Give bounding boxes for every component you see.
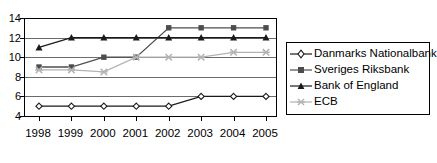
legend-item-bank-of-england: Bank of England (290, 78, 425, 94)
diamond-open-icon (290, 48, 312, 60)
legend-item-sveriges-riksbank: Sveriges Riksbank (290, 62, 425, 78)
x-axis-label: 2005 (252, 128, 278, 140)
x-tick (201, 116, 202, 121)
x-tick (266, 116, 267, 121)
x-axis-label: 1999 (58, 128, 84, 140)
x-tick (234, 116, 235, 121)
y-axis-labels: 14 12 10 8 6 4 (0, 18, 21, 116)
x-axis-label: 1998 (25, 128, 51, 140)
x-tick (71, 116, 72, 121)
x-tick (136, 116, 137, 121)
legend-label: Danmarks Nationalbank (314, 48, 437, 60)
triangle-filled-icon (290, 80, 312, 92)
x-axis-label: 2003 (187, 128, 213, 140)
x-tick (39, 116, 40, 121)
legend: Danmarks Nationalbank Sveriges Riksbank … (286, 42, 430, 115)
x-axis-label: 2002 (155, 128, 181, 140)
legend-label: Sveriges Riksbank (314, 64, 409, 76)
legend-label: ECB (314, 96, 338, 108)
y-tick (20, 116, 25, 117)
series-danmarks-nationalbank (36, 93, 269, 109)
square-filled-icon (290, 64, 312, 76)
legend-item-danmarks-nationalbank: Danmarks Nationalbank (290, 46, 425, 62)
x-axis-label: 2004 (220, 128, 246, 140)
x-cross-icon (290, 96, 312, 108)
x-axis-label: 2001 (122, 128, 148, 140)
x-tick (169, 116, 170, 121)
series-ecb (35, 49, 270, 75)
series-sveriges-riksbank (36, 25, 268, 70)
legend-item-ecb: ECB (290, 94, 425, 110)
series-layer (25, 18, 276, 116)
plot-area (24, 18, 277, 117)
x-tick (104, 116, 105, 121)
legend-label: Bank of England (314, 80, 398, 92)
x-axis-label: 2000 (90, 128, 116, 140)
